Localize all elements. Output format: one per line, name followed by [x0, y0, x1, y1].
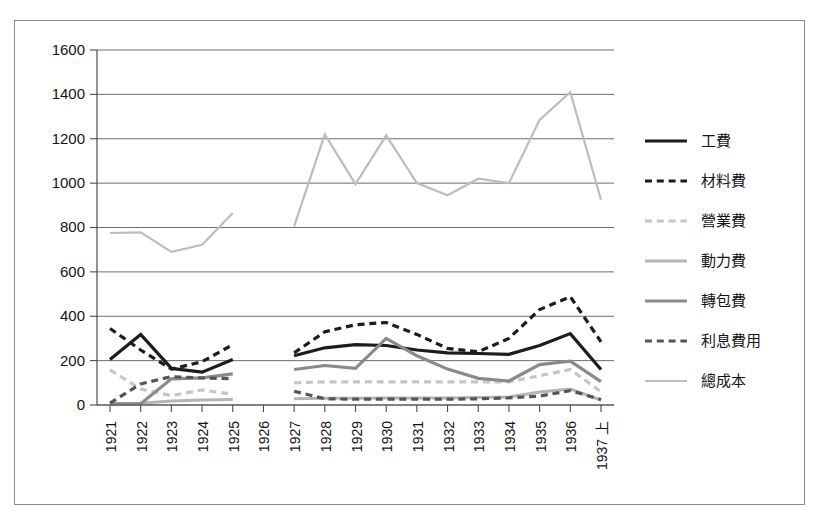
legend-label-7: 總成本	[701, 372, 746, 389]
x-axis-tick-label: 1928	[318, 421, 334, 452]
x-axis-tick-label: 1921	[103, 421, 119, 452]
chart-legend: 工費材料費營業費動力費轉包費利息費用總成本	[645, 132, 761, 389]
y-axis-tick-label: 800	[60, 218, 85, 235]
y-axis-tick-label: 1200	[52, 130, 85, 147]
x-axis-tick-label: 1934	[502, 421, 518, 452]
y-axis-labels: 02004006008001000120014001600	[52, 41, 97, 413]
x-axis-tick-label: 1933	[471, 421, 487, 452]
legend-label-6: 利息費用	[701, 332, 761, 349]
y-axis-tick-label: 1000	[52, 174, 85, 191]
x-axis-tick-label: 1937 上	[594, 421, 610, 470]
series-line-2	[294, 297, 601, 353]
legend-label-3: 營業費	[701, 212, 746, 229]
y-axis-tick-label: 0	[77, 396, 85, 413]
y-axis-tick-label: 400	[60, 307, 85, 324]
x-axis-tick-label: 1926	[256, 421, 272, 452]
series-line-3	[110, 370, 233, 396]
x-axis-tick-label: 1925	[226, 421, 242, 452]
legend-label-2: 材料費	[701, 172, 746, 189]
x-axis-tick-label: 1931	[410, 421, 426, 452]
y-axis-tick-label: 600	[60, 263, 85, 280]
x-axis-tick-label: 1935	[533, 421, 549, 452]
series-line-7	[110, 213, 233, 252]
x-axis-labels: 1921192219231924192519261927192819291930…	[103, 421, 610, 470]
legend-label-4: 動力費	[701, 252, 746, 269]
y-axis-tick-label: 200	[60, 352, 85, 369]
x-axis-tick-label: 1927	[287, 421, 303, 452]
axis-ticks	[110, 405, 601, 412]
x-axis-tick-label: 1922	[134, 421, 150, 452]
x-axis-tick-label: 1936	[563, 421, 579, 452]
legend-label-5: 轉包費	[701, 292, 746, 309]
series-line-7	[294, 92, 601, 226]
y-axis-tick-label: 1600	[52, 41, 85, 58]
x-axis-tick-label: 1932	[441, 421, 457, 452]
x-axis-tick-label: 1929	[349, 421, 365, 452]
series-line-3	[294, 370, 601, 392]
x-axis-tick-label: 1923	[164, 421, 180, 452]
x-axis-tick-label: 1924	[195, 421, 211, 452]
y-axis-tick-label: 1400	[52, 85, 85, 102]
series-line-2	[110, 329, 233, 370]
gridlines	[97, 50, 614, 405]
x-axis-tick-label: 1930	[379, 421, 395, 452]
line-chart: 02004006008001000120014001600 1921192219…	[0, 0, 818, 519]
legend-label-1: 工費	[701, 132, 731, 149]
